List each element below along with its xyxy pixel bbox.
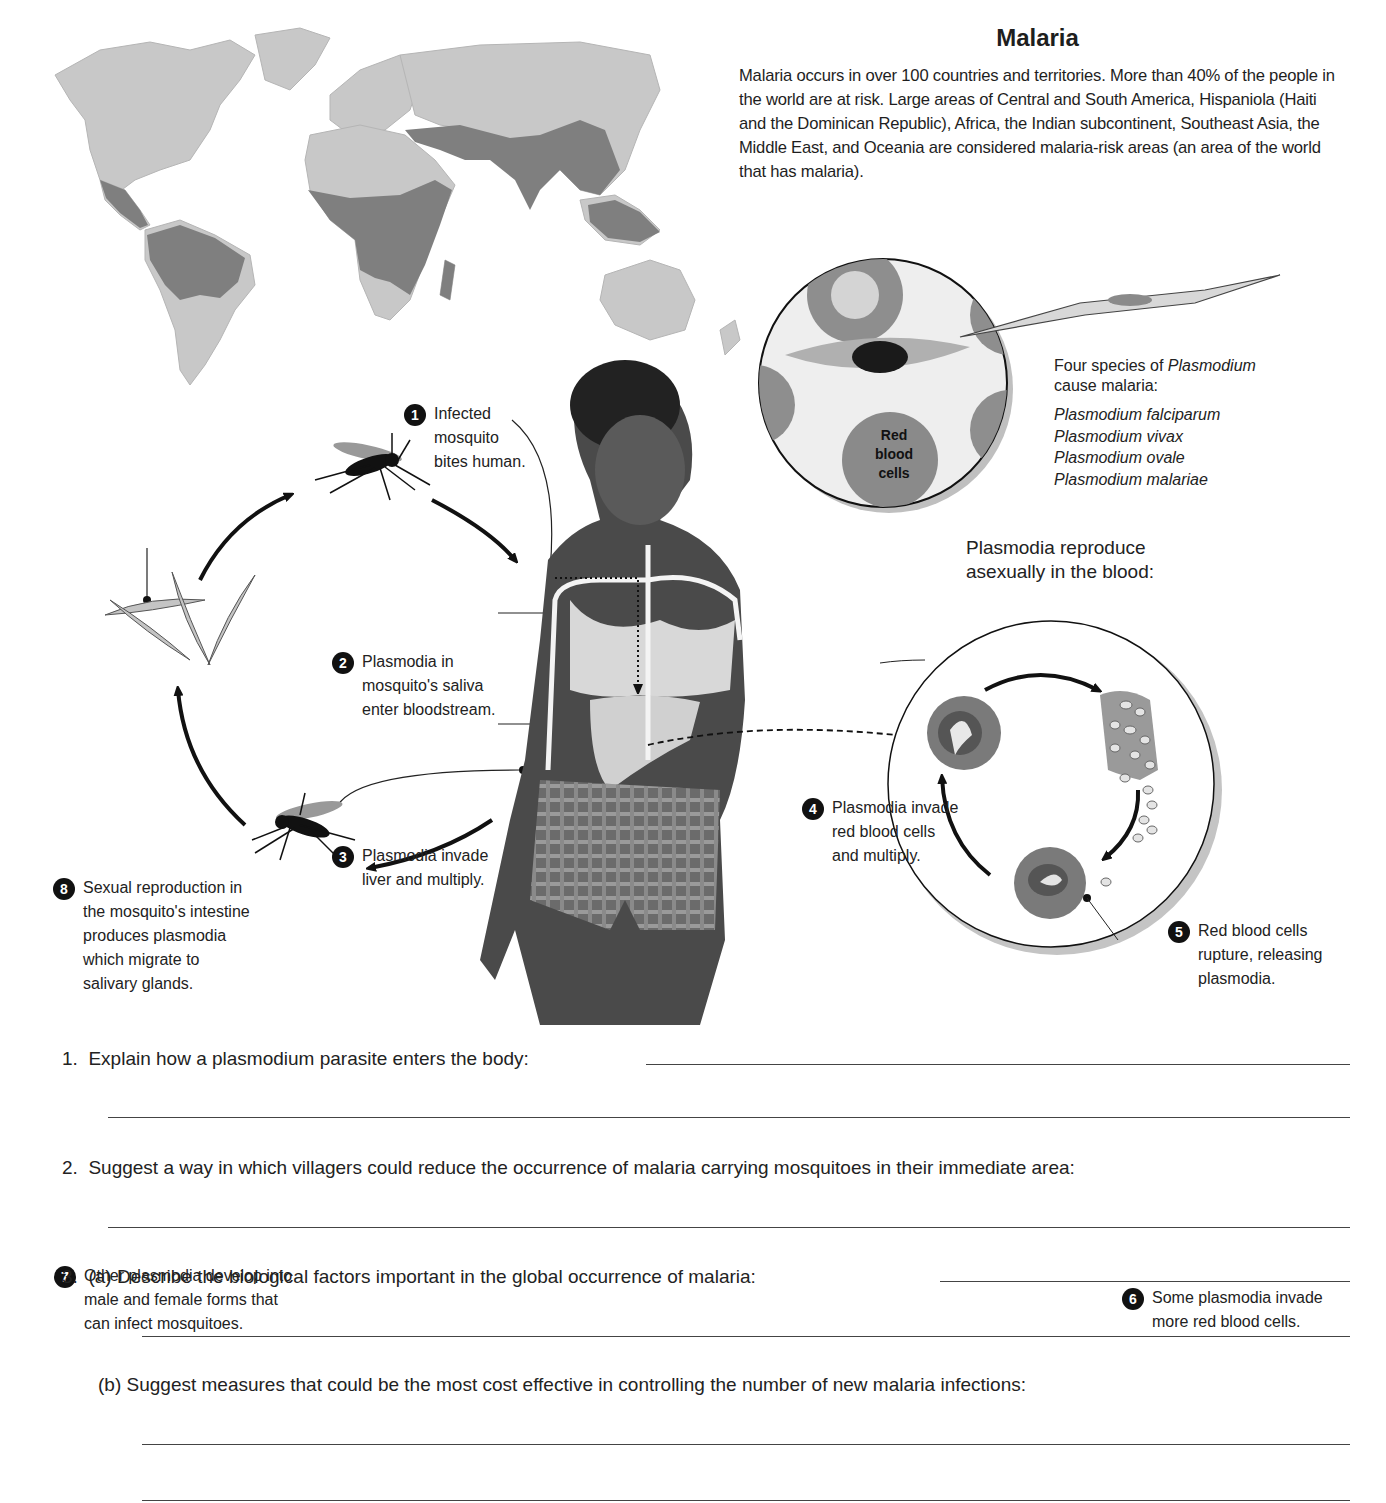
step-4-label: 4 Plasmodia invade red blood cells and m…	[802, 796, 1032, 868]
step-number-badge: 5	[1168, 921, 1190, 943]
step-number-badge: 3	[332, 846, 354, 868]
step-number-badge: 4	[802, 798, 824, 820]
step-6-label: 6 Some plasmodia invade more red blood c…	[1122, 1286, 1386, 1334]
question-1: 1. Explain how a plasmodium parasite ent…	[62, 1046, 529, 1072]
step-8-label: 8 Sexual reproduction in the mosquito's …	[53, 876, 323, 996]
answer-line-1a[interactable]	[646, 1064, 1350, 1065]
step-5-label: 5 Red blood cells rupture, releasing pla…	[1168, 919, 1386, 991]
step-3-label: 3 Plasmodia invade liver and multiply.	[332, 844, 562, 892]
answer-line-3a-2[interactable]	[142, 1336, 1350, 1337]
step-number-badge: 6	[1122, 1288, 1144, 1310]
answer-line-3b-1[interactable]	[142, 1444, 1350, 1445]
answer-line-3b-2[interactable]	[142, 1500, 1350, 1501]
step-number-badge: 8	[53, 878, 75, 900]
answer-line-1b[interactable]	[108, 1117, 1350, 1118]
plasmodia-sporozoites-icon	[105, 572, 255, 665]
step-1-label: 1 Infected mosquito bites human.	[404, 402, 594, 474]
question-3b: (b) Suggest measures that could be the m…	[98, 1372, 1026, 1398]
answer-line-3a-1[interactable]	[940, 1281, 1350, 1282]
step-number-badge: 2	[332, 652, 354, 674]
question-2: 2. Suggest a way in which villagers coul…	[62, 1155, 1075, 1181]
answer-line-2[interactable]	[108, 1227, 1350, 1228]
step-number-badge: 1	[404, 404, 426, 426]
question-3a: 3. (a) Describe the biological factors i…	[62, 1264, 756, 1290]
step-2-label: 2 Plasmodia in mosquito's saliva enter b…	[332, 650, 562, 722]
